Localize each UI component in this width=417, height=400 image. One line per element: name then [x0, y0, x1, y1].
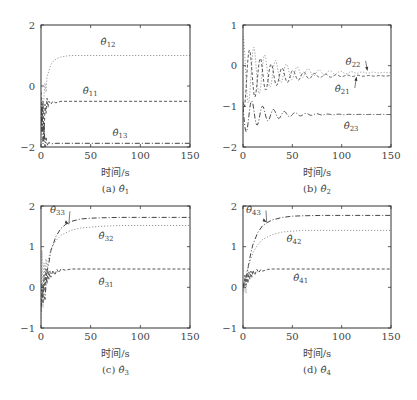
series-line-12 — [41, 56, 190, 135]
y-tick-label: −1 — [222, 323, 237, 334]
x-tick-label: 150 — [381, 331, 400, 342]
y-tick-label: 1 — [231, 20, 237, 31]
y-tick-label: −1 — [20, 323, 35, 334]
x-tick-label: 100 — [131, 150, 150, 161]
y-tick-label: 0 — [231, 60, 237, 71]
series-label: θ̂41 — [293, 272, 308, 285]
x-tick-label: 150 — [381, 150, 400, 161]
series-label: θ̂43 — [246, 204, 261, 217]
series-line-31 — [41, 269, 190, 312]
x-axis-label: 时间/s — [303, 166, 332, 178]
x-tick-label: 50 — [286, 150, 299, 161]
arrowhead-icon — [263, 218, 267, 222]
x-tick-label: 100 — [332, 150, 351, 161]
subplot-b: θ̂22θ̂21θ̂23050100150−2−101时间/s(b) θ̂2 — [222, 20, 400, 197]
y-tick-label: 0 — [29, 81, 35, 92]
x-tick-label: 50 — [286, 331, 299, 342]
x-tick-label: 150 — [180, 150, 199, 161]
arrowhead-icon — [365, 67, 368, 71]
x-tick-label: 100 — [131, 331, 150, 342]
series-line-43 — [243, 215, 391, 287]
y-tick-label: 2 — [29, 20, 35, 31]
x-tick-label: 0 — [38, 331, 44, 342]
y-tick-label: −2 — [222, 142, 237, 153]
subplot-a: θ̂12θ̂11θ̂13050100150−202时间/s(a) θ̂1 — [20, 20, 199, 197]
series-label: θ̂31 — [99, 276, 114, 289]
series-label: θ̂13 — [113, 127, 128, 140]
x-axis-label: 时间/s — [101, 347, 130, 359]
figure: θ̂12θ̂11θ̂13050100150−202时间/s(a) θ̂1θ̂22… — [0, 0, 417, 400]
subplot-caption: (d) θ̂4 — [303, 364, 331, 377]
series-line-22 — [243, 36, 391, 103]
series-label: θ̂42 — [286, 233, 301, 246]
y-tick-label: 0 — [231, 282, 237, 293]
series-label: θ̂23 — [344, 120, 359, 133]
subplot-caption: (c) θ̂3 — [102, 364, 129, 377]
x-tick-label: 50 — [84, 150, 97, 161]
axes-box — [243, 25, 391, 147]
arrowhead-icon — [65, 220, 69, 224]
y-tick-label: 2 — [231, 201, 237, 212]
x-tick-label: 0 — [38, 150, 44, 161]
y-tick-label: 1 — [29, 241, 35, 252]
y-tick-label: 1 — [231, 241, 237, 252]
series-label: θ̂32 — [99, 230, 114, 243]
subplot-caption: (a) θ̂1 — [102, 183, 129, 196]
subplot-c: θ̂33θ̂32θ̂31050100150−1012时间/s(c) θ̂3 — [20, 201, 199, 378]
subplot-d: θ̂43θ̂42θ̂41050100150−1012时间/s(d) θ̂4 — [222, 201, 400, 378]
series-line-41 — [243, 269, 391, 287]
series-line-42 — [243, 230, 391, 293]
annotation-arrow — [266, 211, 267, 223]
x-tick-label: 100 — [332, 331, 351, 342]
x-axis-label: 时间/s — [303, 347, 332, 359]
x-tick-label: 0 — [240, 150, 246, 161]
series-label: θ̂12 — [101, 36, 116, 49]
y-tick-label: 0 — [29, 282, 35, 293]
series-line-21 — [243, 50, 391, 107]
series-line-33 — [41, 217, 190, 307]
x-axis-label: 时间/s — [101, 166, 130, 178]
series-label: θ̂11 — [83, 85, 98, 98]
series-label: θ̂21 — [335, 83, 350, 96]
series-label: θ̂22 — [346, 56, 361, 69]
axes-box — [243, 206, 391, 328]
series-line-13 — [41, 104, 190, 147]
x-tick-label: 0 — [240, 331, 246, 342]
y-tick-label: 2 — [29, 201, 35, 212]
arrowhead-icon — [354, 77, 357, 81]
x-tick-label: 150 — [180, 331, 199, 342]
x-tick-label: 50 — [84, 331, 97, 342]
y-tick-label: −1 — [222, 101, 237, 112]
axes-box — [41, 206, 190, 328]
series-line-32 — [41, 226, 190, 324]
series-line-23 — [243, 101, 391, 132]
subplot-caption: (b) θ̂2 — [303, 183, 331, 196]
y-tick-label: −2 — [20, 142, 35, 153]
